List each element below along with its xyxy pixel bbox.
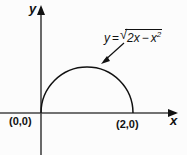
radicand: 2x−x2 xyxy=(125,29,162,44)
math-figure: y x (0,0) (2,0) y=√2x−x2 xyxy=(0,0,187,155)
radical-expression: √2x−x2 xyxy=(121,29,162,44)
x-axis-label: x xyxy=(170,114,177,127)
y-axis-arrowhead xyxy=(37,5,45,15)
radical-sign-icon: √ xyxy=(120,28,127,41)
radicand-term-b-exponent: 2 xyxy=(157,30,161,39)
curve-equation-label: y=√2x−x2 xyxy=(104,29,162,44)
graph-canvas xyxy=(0,0,187,155)
origin-point-label: (0,0) xyxy=(9,116,32,127)
semicircle-curve xyxy=(41,67,133,113)
y-axis-label: y xyxy=(29,2,36,15)
radicand-operator: − xyxy=(140,31,151,45)
x-intercept-point-label: (2,0) xyxy=(116,119,139,130)
radicand-term-a: 2x xyxy=(127,31,140,45)
